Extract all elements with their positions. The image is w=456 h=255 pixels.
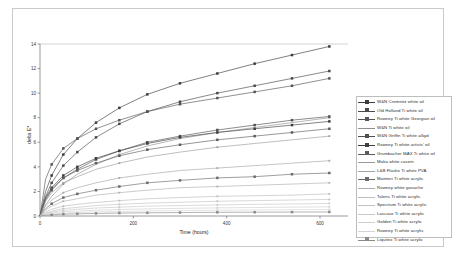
legend-item: Rowney Ti white acrylic xyxy=(358,227,449,236)
svg-text:8: 8 xyxy=(33,115,36,120)
chart-screenshot: 024681012140200400600 Time (hours) delta… xyxy=(0,0,456,255)
legend-list: W&N Cremnitz white oilOld Holland Ti whi… xyxy=(358,98,449,244)
legend-swatch-icon xyxy=(358,218,375,227)
legend-swatch-icon xyxy=(358,193,375,202)
svg-text:4: 4 xyxy=(33,165,36,170)
legend-item: Grumbacher MAX Ti white oil xyxy=(358,150,449,159)
y-axis-title: delta E* xyxy=(26,126,32,144)
legend-item: Old Holland Ti white oil xyxy=(358,107,449,116)
svg-text:12: 12 xyxy=(31,66,37,71)
legend-swatch-icon xyxy=(358,141,375,150)
legend-item-label: Maimeri Ti white acrylic xyxy=(377,175,423,184)
legend-item-label: Talens Ti white acrylic xyxy=(377,193,421,202)
svg-text:600: 600 xyxy=(316,221,324,226)
legend-item-label: Rowney Ti white Georgian oil xyxy=(377,115,435,124)
legend-item: Maka white casein xyxy=(358,158,449,167)
legend-item-label: Golden Ti white acrylic xyxy=(377,218,422,227)
legend-item: Maimeri Ti white acrylic xyxy=(358,175,449,184)
legend-swatch-icon xyxy=(358,175,375,184)
legend-item: Rowney white gouache xyxy=(358,184,449,193)
svg-text:2: 2 xyxy=(33,189,36,194)
legend-item-label: Rowney Ti white acrylic xyxy=(377,227,424,236)
legend-item-label: Old Holland Ti white oil xyxy=(377,107,423,116)
svg-text:14: 14 xyxy=(31,42,37,47)
legend-swatch-icon xyxy=(358,98,375,107)
legend-item: Lascaux Ti white acrylic xyxy=(358,210,449,219)
legend-item-label: L&B Flashe Ti white PVA xyxy=(377,167,426,176)
svg-text:400: 400 xyxy=(223,221,231,226)
legend-item: Liquitex Ti white acrylic xyxy=(358,236,449,245)
svg-text:6: 6 xyxy=(33,140,36,145)
legend-swatch-icon xyxy=(358,107,375,116)
chart-legend: W&N Cremnitz white oilOld Holland Ti whi… xyxy=(356,96,452,238)
legend-item-label: W&N Ti white oil xyxy=(377,124,410,133)
legend-swatch-icon xyxy=(358,158,375,167)
legend-swatch-icon xyxy=(358,227,375,236)
legend-item: W&N Cremnitz white oil xyxy=(358,98,449,107)
legend-item: L&B Flashe Ti white PVA xyxy=(358,167,449,176)
legend-item-label: Rowney white gouache xyxy=(377,184,423,193)
legend-item: Spectrum Ti white acrylic xyxy=(358,201,449,210)
x-axis-title: Time (hours) xyxy=(40,229,348,235)
legend-item: Rowney Ti white Georgian oil xyxy=(358,115,449,124)
svg-text:0: 0 xyxy=(39,221,42,226)
svg-text:10: 10 xyxy=(31,91,37,96)
legend-item-label: Rowney Ti white artists' oil xyxy=(377,141,430,150)
legend-swatch-icon xyxy=(358,210,375,219)
legend-swatch-icon xyxy=(358,236,375,245)
legend-item: Golden Ti white acrylic xyxy=(358,218,449,227)
legend-swatch-icon xyxy=(358,115,375,124)
svg-text:0: 0 xyxy=(33,214,36,219)
legend-item-label: Grumbacher MAX Ti white oil xyxy=(377,150,435,159)
legend-item-label: Lascaux Ti white acrylic xyxy=(377,210,424,219)
legend-item: Talens Ti white acrylic xyxy=(358,193,449,202)
svg-text:200: 200 xyxy=(129,221,137,226)
legend-item-label: W&N Griffin Ti white alkyd xyxy=(377,132,429,141)
legend-item-label: Spectrum Ti white acrylic xyxy=(377,201,427,210)
legend-item: W&N Ti white oil xyxy=(358,124,449,133)
legend-swatch-icon xyxy=(358,184,375,193)
legend-swatch-icon xyxy=(358,201,375,210)
legend-swatch-icon xyxy=(358,132,375,141)
legend-item: Rowney Ti white artists' oil xyxy=(358,141,449,150)
legend-swatch-icon xyxy=(358,150,375,159)
legend-swatch-icon xyxy=(358,167,375,176)
legend-swatch-icon xyxy=(358,124,375,133)
legend-item-label: Maka white casein xyxy=(377,158,414,167)
legend-item-label: Liquitex Ti white acrylic xyxy=(377,236,423,245)
legend-item-label: W&N Cremnitz white oil xyxy=(377,98,424,107)
legend-item: W&N Griffin Ti white alkyd xyxy=(358,132,449,141)
